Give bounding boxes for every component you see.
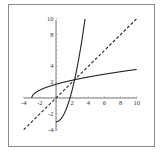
x-tick-label: -2 — [37, 99, 42, 106]
data-series — [24, 19, 137, 130]
y-tick-label: -4 — [48, 126, 54, 133]
y-tick-label: 8 — [50, 31, 53, 38]
plot-area: -4-2246810 10842-2-4 — [0, 0, 160, 154]
curve-inverse-icon — [32, 69, 137, 98]
x-axis-tick-labels: -4-2246810 — [21, 99, 140, 106]
x-tick-label: 2 — [71, 99, 74, 106]
x-tick-label: 10 — [133, 99, 140, 106]
y-tick-label: 4 — [50, 62, 54, 69]
y-tick-label: 2 — [50, 78, 53, 85]
x-tick-label: 4 — [87, 99, 91, 106]
y-tick-label: -2 — [48, 110, 53, 117]
x-tick-label: 8 — [119, 99, 122, 106]
x-tick-label: 6 — [103, 99, 107, 106]
curve-f-icon — [56, 19, 85, 122]
identity-line-icon — [24, 19, 137, 130]
y-tick-label: 10 — [47, 15, 54, 22]
y-axis-tick-labels: 10842-2-4 — [47, 15, 54, 133]
x-tick-label: -4 — [21, 99, 27, 106]
